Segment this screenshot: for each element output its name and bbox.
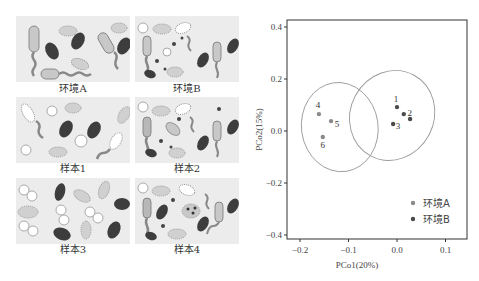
data-point (402, 112, 406, 116)
x-axis-label: PCo1(20%) (336, 260, 379, 270)
panel-label-env-b: 环境B (130, 83, 244, 95)
point-label: 4 (316, 100, 321, 110)
panel-label-sample-1: 样本1 (16, 163, 130, 175)
legend-marker (411, 217, 415, 221)
panel-label-sample-4: 样本4 (130, 244, 244, 256)
confidence-ellipse (334, 55, 451, 175)
panel-sample-1 (16, 97, 130, 163)
point-label: 2 (408, 108, 413, 118)
x-tick-label: −0.1 (340, 245, 356, 255)
panel-env-b (135, 16, 239, 82)
y-tick-label: 0.2 (271, 74, 282, 84)
y-tick-label: 0.4 (271, 22, 283, 32)
panel-sample-4 (135, 178, 239, 244)
legend-marker (411, 201, 415, 205)
microbe-illustration (16, 178, 130, 244)
microbe-illustration (135, 178, 239, 244)
data-point (391, 122, 395, 126)
point-label: 5 (335, 119, 340, 129)
microbe-illustration (16, 16, 130, 82)
panel-label-sample-2: 样本2 (130, 163, 244, 175)
panel-label-sample-3: 样本3 (16, 244, 130, 256)
x-tick-label: 0.1 (440, 245, 451, 255)
panel-label-env-a: 环境A (16, 83, 130, 95)
data-point (395, 105, 399, 109)
microbe-illustration (16, 97, 130, 163)
legend-label: 环境B (423, 213, 450, 225)
point-label: 1 (394, 94, 399, 104)
panel-env-a (16, 16, 130, 82)
y-axis-label: PCo2(15%) (254, 108, 264, 151)
panel-sample-3 (16, 178, 130, 244)
panel-sample-2 (135, 97, 239, 163)
y-tick-label: −0.4 (266, 230, 283, 240)
plot-frame (287, 20, 467, 239)
point-label: 3 (396, 121, 401, 131)
data-point (329, 119, 333, 123)
legend-label: 环境A (423, 197, 450, 209)
microbe-illustration (135, 16, 239, 82)
confidence-ellipse (296, 77, 384, 176)
x-tick-label: −0.2 (292, 245, 308, 255)
y-tick-label: −0.2 (266, 178, 282, 188)
data-point (317, 112, 321, 116)
microbe-illustration (135, 97, 239, 163)
data-point (321, 135, 325, 139)
point-label: 6 (321, 140, 326, 150)
x-tick-label: 0.0 (391, 245, 403, 255)
data-point (408, 117, 412, 121)
y-tick-label: 0.0 (271, 126, 283, 136)
